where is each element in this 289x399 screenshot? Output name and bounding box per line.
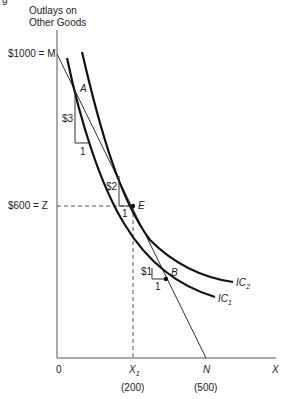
n-value-label: (500) (194, 382, 217, 393)
indifference-diagram: g Outlays on Other Goods $1000 = M $600 … (0, 0, 289, 399)
point-b-label: B (171, 267, 178, 278)
x1-value-label: (200) (121, 382, 144, 393)
slope-e-rise: $2 (106, 181, 118, 192)
x-axis-label: X (271, 364, 279, 375)
origin-label: 0 (56, 364, 62, 375)
indifference-curve-ic2 (82, 52, 233, 282)
point-e-label: E (138, 200, 145, 211)
n-label: N (203, 364, 211, 375)
slope-a-rise: $3 (62, 113, 74, 124)
ic2-label: IC2 (236, 277, 250, 290)
slope-b-rise: $1 (141, 266, 153, 277)
y-axis-title-line2: Other Goods (29, 17, 86, 28)
point-b-marker (164, 277, 168, 281)
indifference-curve-ic1 (67, 58, 215, 297)
ic1-label: IC1 (218, 293, 232, 306)
y-axis-title-line1: Outlays on (29, 5, 77, 16)
slope-b-run: 1 (155, 281, 161, 292)
x1-label: X1 (128, 364, 140, 377)
clipped-heading: g (2, 0, 8, 5)
slope-e-run: 1 (122, 208, 128, 219)
y-tick-Z: $600 = Z (8, 200, 48, 211)
point-a-label: A (79, 83, 87, 94)
slope-a-run: 1 (80, 146, 86, 157)
slope-triangle-e (119, 176, 133, 206)
y-tick-M: $1000 = M (8, 48, 56, 59)
point-e-marker (131, 204, 135, 208)
